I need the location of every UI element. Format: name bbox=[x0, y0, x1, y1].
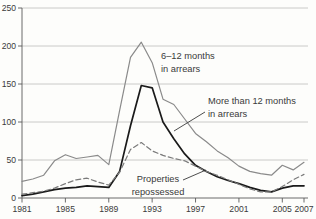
x-tick-label-1993: 1993 bbox=[143, 204, 162, 214]
label-properties-repossessed-leader-line bbox=[183, 170, 206, 180]
arrears-repossessions-figure: 0501001502002501981198519891993199720012… bbox=[0, 0, 316, 219]
x-tick-label-1985: 1985 bbox=[56, 204, 75, 214]
y-tick-label-200: 200 bbox=[2, 41, 17, 51]
label-properties-repossessed: Propertiesrepossessed bbox=[132, 174, 185, 197]
line-chart-canvas: 0501001502002501981198519891993199720012… bbox=[0, 0, 316, 219]
y-tick-label-100: 100 bbox=[2, 117, 17, 127]
x-tick-label-1981: 1981 bbox=[12, 204, 31, 214]
x-tick-label-2007: 2007 bbox=[294, 204, 313, 214]
y-tick-label-250: 250 bbox=[2, 3, 17, 13]
label-more-than-12-months-leader-line bbox=[174, 112, 205, 131]
label-more-than-12-months: More than 12 monthsin arrears bbox=[208, 96, 296, 119]
y-tick-label-150: 150 bbox=[2, 79, 17, 89]
y-tick-label-50: 50 bbox=[6, 155, 16, 165]
x-tick-label-1989: 1989 bbox=[99, 204, 118, 214]
y-tick-label-0: 0 bbox=[11, 193, 16, 203]
label-6-12-months: 6–12 monthsin arrears bbox=[161, 51, 215, 74]
x-tick-label-2005: 2005 bbox=[273, 204, 292, 214]
x-tick-label-2001: 2001 bbox=[229, 204, 248, 214]
x-tick-label-1997: 1997 bbox=[186, 204, 205, 214]
